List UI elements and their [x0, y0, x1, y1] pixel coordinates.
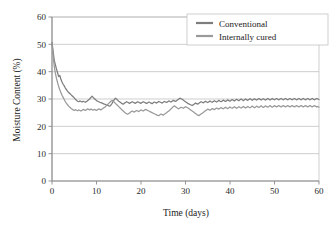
- y-tick-label-40: 40: [37, 67, 47, 77]
- x-tick-label-20: 20: [137, 186, 147, 196]
- y-tick-label-30: 30: [37, 94, 47, 104]
- legend-label-conventional: Conventional: [219, 19, 268, 29]
- x-tick-label-0: 0: [50, 186, 55, 196]
- moisture-content-line-chart: 0102030405060 0102030405060 Time (days) …: [0, 0, 334, 227]
- chart-legend: Conventional Internally cured: [187, 14, 328, 45]
- x-tick-label-10: 10: [92, 186, 102, 196]
- x-tick-label-50: 50: [270, 186, 280, 196]
- x-tick-label-60: 60: [315, 186, 325, 196]
- x-axis-title: Time (days): [163, 208, 209, 219]
- y-tick-label-0: 0: [42, 176, 47, 186]
- y-tick-label-60: 60: [37, 12, 47, 22]
- y-tick-label-20: 20: [37, 122, 47, 132]
- x-tick-label-30: 30: [181, 186, 191, 196]
- y-tick-label-50: 50: [37, 40, 47, 50]
- chart-figure: 0102030405060 0102030405060 Time (days) …: [0, 0, 334, 227]
- x-tick-label-40: 40: [226, 186, 236, 196]
- y-tick-label-10: 10: [37, 149, 47, 159]
- y-axis-title: Moisture Content (%): [12, 58, 23, 141]
- legend-label-internally-cured: Internally cured: [219, 32, 277, 42]
